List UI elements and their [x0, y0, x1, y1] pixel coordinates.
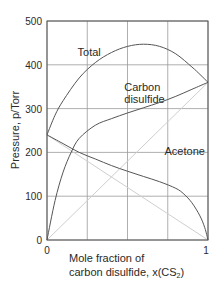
y-tick-label: 200	[25, 147, 42, 158]
y-axis-label: Pressure, p/Torr	[9, 91, 21, 170]
grid-lines	[47, 21, 208, 240]
y-tick-label: 300	[25, 104, 42, 115]
y-tick-label: 0	[36, 235, 42, 246]
curve-labels: TotalCarbondisulfideAcetone	[78, 46, 205, 157]
x-axis-label-line1: Mole fraction of	[69, 252, 145, 264]
y-axis-ticks: 0100200300400500	[25, 16, 42, 246]
curve-label: disulfide	[124, 93, 164, 105]
vapour-pressure-chart: 0100200300400500 01 TotalCarbondisulfide…	[0, 0, 221, 284]
x-tick-label: 0	[44, 245, 50, 256]
y-tick-label: 500	[25, 16, 42, 27]
curve-label: Total	[78, 46, 101, 58]
x-axis-label-line2: carbon disulfide, x(CS2)	[69, 266, 184, 279]
curve-label: Carbon	[124, 81, 160, 93]
x-tick-label: 1	[203, 245, 209, 256]
curve-label: Acetone	[165, 145, 205, 157]
y-tick-label: 400	[25, 60, 42, 71]
y-tick-label: 100	[25, 191, 42, 202]
